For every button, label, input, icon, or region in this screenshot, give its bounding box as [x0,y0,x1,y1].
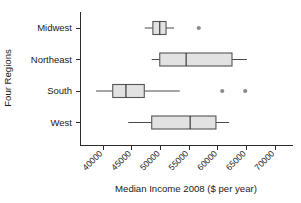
box-iqr [160,53,232,66]
y-tick-label-south: South [47,85,72,96]
boxplot-chart: MidwestNortheastSouthWest 40000450005000… [0,0,301,203]
y-tick-label-west: West [51,117,73,128]
outlier-point [243,89,247,93]
box-iqr [113,85,145,98]
x-axis-title: Median Income 2008 ($ per year) [115,183,257,194]
box-iqr [152,116,216,129]
y-tick-label-midwest: Midwest [37,22,72,33]
y-tick-label-northeast: Northeast [31,54,73,65]
outlier-point [197,26,201,30]
y-axis-title: Four Regions [2,49,13,107]
plot-canvas: MidwestNortheastSouthWest 40000450005000… [0,0,301,203]
outlier-point [220,89,224,93]
